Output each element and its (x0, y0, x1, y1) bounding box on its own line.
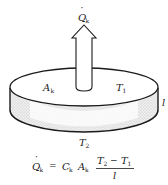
svg-text:1: 1 (128, 160, 132, 167)
svg-text:A: A (42, 82, 50, 93)
svg-text:=: = (49, 161, 57, 171)
svg-text:2: 2 (86, 142, 90, 149)
heat-flow-arrow-icon (72, 25, 96, 91)
svg-text:A: A (77, 161, 85, 172)
heat-flow-label: · Q k (78, 3, 90, 24)
heat-conduction-diagram: · Q k A k T 1 l T 2 Q · Q k = C k A k T … (0, 0, 168, 185)
thickness-label: l (162, 97, 165, 108)
svg-text:2: 2 (104, 160, 108, 167)
conduction-equation: Q · Q k = C k A k T 2 − T 1 l (32, 149, 134, 181)
svg-text:k: k (40, 166, 44, 173)
svg-text:k: k (86, 17, 90, 24)
bottom-temperature-label: T 2 (79, 137, 90, 149)
svg-text:1: 1 (123, 87, 127, 94)
svg-text:l: l (113, 170, 116, 181)
svg-text:k: k (85, 166, 89, 173)
svg-text:k: k (51, 87, 55, 94)
svg-text:−: − (110, 155, 118, 165)
svg-text:k: k (69, 166, 73, 173)
